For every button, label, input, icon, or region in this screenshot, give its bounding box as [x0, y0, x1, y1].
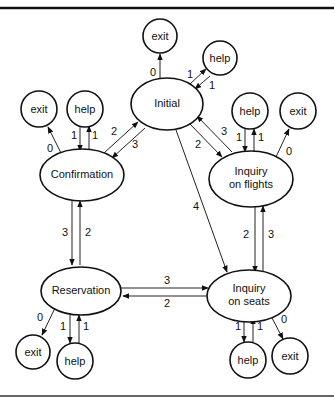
node-label: help — [65, 355, 86, 367]
node-label: exit — [281, 350, 298, 362]
node-initial: Initial — [131, 78, 203, 130]
node-exit-seats: exit — [272, 338, 308, 374]
node-label: Confirmation — [51, 168, 113, 180]
node-help-flights: help — [232, 93, 268, 129]
edge-label: 2 — [164, 297, 170, 309]
edge-label: 1 — [258, 131, 264, 143]
edge-label: 1 — [187, 68, 193, 80]
node-exit-confirmation: exit — [21, 91, 57, 127]
edge-label: 1 — [236, 131, 242, 143]
edge-label: 3 — [221, 125, 227, 137]
state-diagram: 0 1 1 2 3 0 1 1 2 3 1 1 0 4 3 2 2 3 3 2 … — [0, 0, 334, 402]
edge-label: 3 — [164, 274, 170, 286]
edge-label: 3 — [62, 226, 68, 238]
node-help-seats: help — [230, 342, 266, 378]
node-inquiry-seats: Inquiry on seats — [207, 270, 291, 322]
node-help-reservation: help — [57, 343, 93, 379]
edge-reservation-exit — [42, 306, 56, 335]
edge-initial-flights — [189, 123, 222, 157]
node-confirmation: Confirmation — [40, 149, 124, 201]
node-exit-initial: exit — [143, 19, 177, 53]
edge-label: 1 — [92, 129, 98, 141]
node-label: help — [238, 354, 259, 366]
node-label: help — [210, 52, 231, 64]
edge-label: 1 — [71, 129, 77, 141]
edge-label: 1 — [83, 320, 89, 332]
node-help-confirmation: help — [67, 91, 103, 127]
node-label: Inquiry — [232, 282, 266, 294]
node-label: on flights — [229, 178, 274, 190]
edge-label: 1 — [209, 79, 215, 91]
node-help-initial: help — [203, 41, 237, 75]
edge-label: 2 — [195, 138, 201, 150]
edge-label: 1 — [60, 320, 66, 332]
node-label: Reservation — [52, 284, 111, 296]
node-exit-flights: exit — [280, 93, 316, 129]
edge-label: 0 — [47, 142, 53, 154]
edge-initial-seats — [176, 130, 227, 272]
node-label: on seats — [228, 295, 270, 307]
edge-label: 2 — [111, 125, 117, 137]
edge-label: 0 — [37, 311, 43, 323]
edge-label: 2 — [85, 226, 91, 238]
node-label: exit — [289, 105, 306, 117]
node-label: Inquiry — [234, 165, 268, 177]
edge-label: 3 — [268, 228, 274, 240]
node-label: help — [75, 103, 96, 115]
edge-label: 0 — [150, 66, 156, 78]
node-label: exit — [30, 103, 47, 115]
node-label: exit — [151, 30, 168, 42]
edge-label: 4 — [193, 200, 199, 212]
node-inquiry-flights: Inquiry on flights — [209, 151, 293, 207]
node-exit-reservation: exit — [16, 335, 50, 369]
edge-label: 0 — [286, 145, 292, 157]
node-label: Initial — [154, 97, 180, 109]
edge-label: 0 — [281, 313, 287, 325]
edge-help-initial — [195, 76, 210, 89]
edge-label: 2 — [243, 228, 249, 240]
node-label: exit — [24, 346, 41, 358]
node-label: help — [240, 105, 261, 117]
edge-label: 3 — [132, 138, 138, 150]
node-reservation: Reservation — [41, 267, 121, 315]
